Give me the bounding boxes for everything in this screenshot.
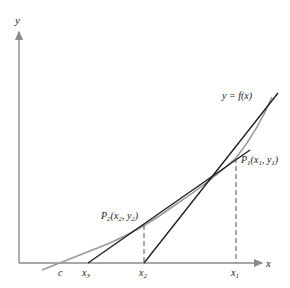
tick-x1: x1	[230, 267, 239, 280]
tick-c: c	[58, 267, 63, 278]
tick-x3: x3	[81, 267, 90, 280]
tangent-p1	[144, 93, 278, 263]
newton-method-diagram: y x y = f(x) P1(x1, y1) P2(x2, y2) c x3 …	[0, 0, 290, 288]
x-axis-label: x	[265, 257, 271, 269]
tick-x2: x2	[138, 267, 147, 280]
curve-label: y = f(x)	[221, 90, 253, 102]
curve-f	[42, 97, 272, 270]
y-axis-label: y	[14, 14, 20, 26]
tangent-p2	[88, 150, 250, 263]
p2-label: P2(x2, y2)	[100, 210, 139, 223]
p1-label: P1(x1, y1)	[240, 154, 279, 167]
